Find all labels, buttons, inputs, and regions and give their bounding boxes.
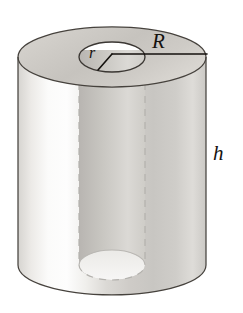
outer-radius-label: R bbox=[152, 31, 165, 52]
cylinder-illustration bbox=[0, 0, 243, 313]
height-label: h bbox=[213, 143, 224, 164]
inner-radius-label: r bbox=[89, 45, 95, 61]
hollow-cylinder-figure: R r h bbox=[0, 0, 243, 313]
